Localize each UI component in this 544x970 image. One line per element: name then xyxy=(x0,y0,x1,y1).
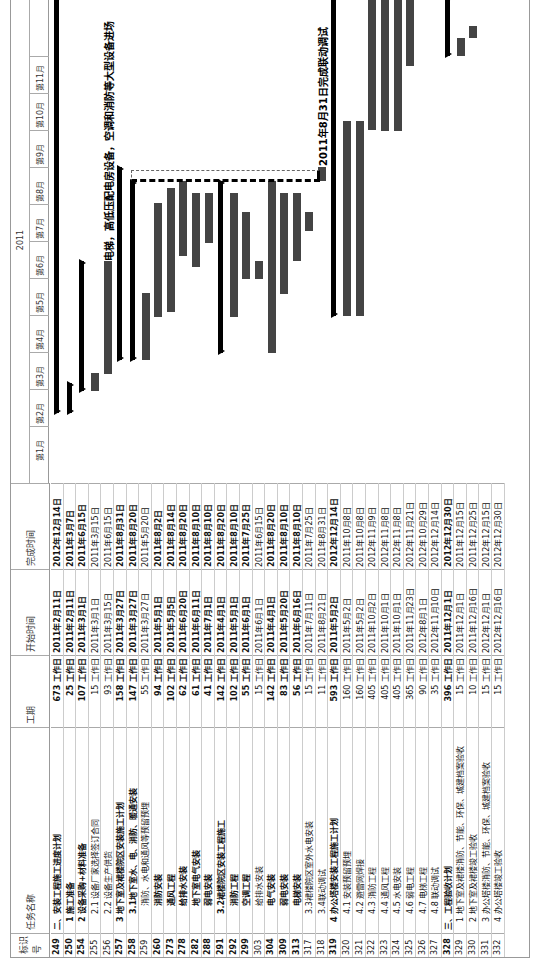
task-name: 3.4联动调试 xyxy=(316,727,328,933)
table-row[interactable]: 2501 施工准备25 工作日2011年2月11日2011年3月7日 xyxy=(64,483,77,957)
table-row[interactable]: 3302 地下室及裙楼竣工验收10 工作日2011年12月16日2011年12月… xyxy=(467,483,480,957)
task-start: 2012年8月1日 xyxy=(416,569,428,655)
task-bar[interactable] xyxy=(179,181,187,256)
task-name: 1 地下室及裙楼消防、节能、环保、城建档案验收 xyxy=(454,727,466,933)
header-finish: 完成时间 xyxy=(11,483,49,569)
task-bar[interactable] xyxy=(368,0,376,130)
summary-bar[interactable] xyxy=(130,181,135,360)
task-bar[interactable] xyxy=(356,121,364,316)
table-row[interactable]: 2913.2裙楼院区安装工程施工142 工作日2011年4月1日2011年8月2… xyxy=(215,483,228,957)
table-row[interactable]: 282地下室电气安装61 工作日2011年6月11日2011年8月10日 xyxy=(190,483,203,957)
task-id: 322 xyxy=(366,933,378,957)
table-row[interactable]: 259消防、水电和通风等预留预埋55 工作日2011年3月27日2011年5月2… xyxy=(139,483,152,957)
task-duration: 15 工作日 xyxy=(89,655,101,727)
task-bar[interactable] xyxy=(457,38,465,56)
summary-bar[interactable] xyxy=(331,0,336,316)
table-row[interactable]: 3324 办公塔楼竣工验收15 工作日2012年12月16日2012年12月30… xyxy=(492,483,505,957)
task-name: 4 办公塔楼安装工程施工计划 xyxy=(328,727,340,933)
summary-bar[interactable] xyxy=(54,0,59,413)
table-row[interactable]: 278给排水安装62 工作日2011年6月20日2011年8月20日 xyxy=(177,483,190,957)
table-row[interactable]: 3291 地下室及裙楼消防、节能、环保、城建档案验收15 工作日2011年12月… xyxy=(454,483,467,957)
table-row[interactable]: 2583.1地下室水、电、消防、暖通安装147 工作日2011年3月27日201… xyxy=(127,483,140,957)
task-bar[interactable] xyxy=(469,26,477,38)
task-finish: 2012年11月8日 xyxy=(379,483,391,569)
task-bar[interactable] xyxy=(268,181,276,354)
table-row[interactable]: 3313 办公塔楼消防、节能、环保、城建档案验收15 工作日2012年12月1日… xyxy=(479,483,492,957)
task-bar[interactable] xyxy=(205,193,213,243)
task-name: 3.1地下室水、电、消防、暖通安装 xyxy=(127,727,139,933)
task-bar[interactable] xyxy=(192,193,200,267)
task-finish: 2011年8月20日 xyxy=(127,483,139,569)
task-bar[interactable] xyxy=(343,121,351,316)
task-bar[interactable] xyxy=(381,0,389,131)
table-row[interactable]: 3173.3裙楼院区室外水电安装15 工作日2011年7月11日2011年7月2… xyxy=(303,483,316,957)
table-row[interactable]: 3244.5 水电安装405 工作日2011年10月1日2012年11月8日 xyxy=(391,483,404,957)
table-row[interactable]: 3234.4 通风工程405 工作日2011年10月1日2012年11月8日 xyxy=(379,483,392,957)
table-row[interactable]: 292消防工程102 工作日2011年5月1日2011年8月10日 xyxy=(227,483,240,957)
summary-bar[interactable] xyxy=(117,167,122,359)
task-finish: 2011年8月31日 xyxy=(316,483,328,569)
table-row[interactable]: 3183.4联动调试11 工作日2011年8月21日2011年8月31日 xyxy=(316,483,329,957)
table-row[interactable]: 303给排水安装15 工作日2011年6月1日2011年6月15日 xyxy=(253,483,266,957)
task-name: 3 地下室及裙楼院区安装施工计划 xyxy=(114,727,126,933)
table-row[interactable]: 3264.7 电梯工程90 工作日2012年8月1日2012年10月29日 xyxy=(416,483,429,957)
summary-bar[interactable] xyxy=(445,0,450,57)
table-row[interactable]: 260消防安装94 工作日2011年5月1日2011年8月2日 xyxy=(152,483,165,957)
task-bar[interactable] xyxy=(255,261,263,279)
table-row[interactable]: 313电梯安装56 工作日2011年6月16日2011年8月10日 xyxy=(290,483,303,957)
summary-bar[interactable] xyxy=(218,181,223,354)
header-name: 任务名称 xyxy=(11,727,49,933)
table-row[interactable]: 3204.1 安装预留预埋160 工作日2011年5月2日2011年10月8日 xyxy=(341,483,354,957)
table-row[interactable]: 3194 办公塔楼安装工程施工计划593 工作日2011年5月2日2012年12… xyxy=(328,483,341,957)
task-finish: 2011年8月20日 xyxy=(265,483,277,569)
summary-bar[interactable] xyxy=(79,261,84,391)
task-id: 323 xyxy=(379,933,391,957)
task-start: 2011年6月16日 xyxy=(290,569,302,655)
task-duration: 160 工作日 xyxy=(353,655,365,727)
task-bar[interactable] xyxy=(305,212,313,230)
table-row[interactable]: 2573 地下室及裙楼院区安装施工计划158 工作日2011年3月27日2011… xyxy=(114,483,127,957)
task-duration: 55 工作日 xyxy=(139,655,151,727)
task-duration: 593 工作日 xyxy=(328,655,340,727)
task-bar[interactable] xyxy=(394,0,402,131)
task-bar[interactable] xyxy=(167,188,175,312)
task-id: 332 xyxy=(492,933,504,957)
task-bar[interactable] xyxy=(242,212,250,279)
task-id: 273 xyxy=(164,933,176,957)
task-start: 2012年12月16日 xyxy=(492,569,504,655)
task-finish: 2012年12月30日 xyxy=(442,483,454,569)
table-row[interactable]: 304电气安装142 工作日2011年4月1日2011年8月20日 xyxy=(265,483,278,957)
table-row[interactable]: 2562.2 设备生产供货93 工作日2011年3月15日2011年6月15日 xyxy=(101,483,114,957)
table-row[interactable]: 273通风工程102 工作日2011年5月5日2011年8月14日 xyxy=(164,483,177,957)
task-bar[interactable] xyxy=(154,203,162,317)
task-duration: 102 工作日 xyxy=(227,655,239,727)
task-name: 消防安装 xyxy=(152,727,164,933)
table-row[interactable]: 309弱电安装83 工作日2011年5月20日2011年8月10日 xyxy=(278,483,291,957)
task-bar[interactable] xyxy=(230,193,238,317)
task-bar[interactable] xyxy=(280,193,288,294)
task-name: 电梯安装 xyxy=(290,727,302,933)
task-name: 4.1 安装预留预埋 xyxy=(341,727,353,933)
task-duration: 35 工作日 xyxy=(429,655,441,727)
task-bar[interactable] xyxy=(91,373,99,391)
table-row[interactable]: 328三、工程验收计划396 工作日2011年12月1日2012年12月30日 xyxy=(442,483,455,957)
table-row[interactable]: 2542 设备采购+材料准备107 工作日2011年3月1日2011年6月15日 xyxy=(76,483,89,957)
table-row[interactable]: 2552.1 设备厂家选择签订合同15 工作日2011年3月1日2011年3月1… xyxy=(89,483,102,957)
table-row[interactable]: 3214.2 避雷网焊接160 工作日2011年5月2日2011年10月8日 xyxy=(353,483,366,957)
task-finish: 2012年11月8日 xyxy=(391,483,403,569)
header-id: 标识号 xyxy=(11,933,49,957)
table-row[interactable]: 3224.3 消防工程405 工作日2011年10月2日2012年11月9日 xyxy=(366,483,379,957)
table-row[interactable]: 249二、安装工程施工进度计划673 工作日2011年2月11日2012年12月… xyxy=(51,483,64,957)
task-bar[interactable] xyxy=(142,293,150,360)
task-bar[interactable] xyxy=(406,0,414,66)
table-row[interactable]: 3274.8 联动调试35 工作日2012年11月10日2012年12月14日 xyxy=(429,483,442,957)
task-id: 250 xyxy=(64,933,76,957)
task-bar[interactable] xyxy=(293,193,301,261)
timeline-month: 第8月 xyxy=(30,167,49,204)
table-row[interactable]: 3254.6 弱电工程365 工作日2011年11月23日2012年11月21日 xyxy=(404,483,417,957)
task-name: 1 施工准备 xyxy=(64,727,76,933)
table-row[interactable]: 299空调工程55 工作日2011年6月1日2011年7月25日 xyxy=(240,483,253,957)
task-bar[interactable] xyxy=(104,261,112,374)
summary-bar[interactable] xyxy=(67,383,72,413)
table-row[interactable]: 288弱电安装41 工作日2011年7月1日2011年8月10日 xyxy=(202,483,215,957)
